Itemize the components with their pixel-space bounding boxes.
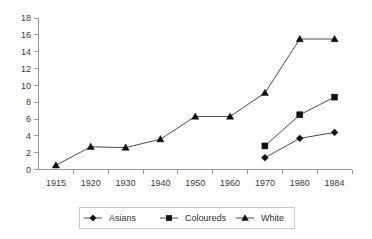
x-tick-label: 1950 <box>185 178 205 188</box>
y-tick-label: 14 <box>21 47 31 57</box>
chart-canvas: 024681012141618 191519201930194019501960… <box>0 0 372 239</box>
y-tick-label: 10 <box>21 81 31 91</box>
y-tick-label: 18 <box>21 13 31 23</box>
x-tick-label: 1920 <box>81 178 101 188</box>
y-tick-label: 2 <box>26 148 31 158</box>
data-point-diamond-marker <box>331 129 338 136</box>
data-point-square-marker <box>332 94 338 100</box>
series-asians <box>262 129 338 161</box>
chart-legend: AsiansColouredsWhite <box>80 208 295 229</box>
data-point-square-marker <box>262 143 268 149</box>
data-point-square-marker <box>166 215 172 221</box>
y-tick-label: 0 <box>26 165 31 175</box>
y-tick-group: 024681012141618 <box>21 13 39 175</box>
data-point-triangle-marker <box>157 136 164 142</box>
legend-label-coloureds: Coloureds <box>185 213 227 223</box>
x-tick-label: 1960 <box>220 178 240 188</box>
legend-label-asians: Asians <box>109 213 137 223</box>
legend-label-white: White <box>261 213 284 223</box>
y-tick-label: 4 <box>26 131 31 141</box>
series-white <box>52 35 338 168</box>
x-tick-label: 1915 <box>46 178 66 188</box>
data-series-group <box>52 35 338 168</box>
y-tick-label: 6 <box>26 114 31 124</box>
x-tick-label: 1984 <box>325 178 345 188</box>
x-tick-group: 191519201930194019501960197019801984 <box>46 170 352 189</box>
line-chart: 024681012141618 191519201930194019501960… <box>0 0 372 239</box>
y-tick-label: 8 <box>26 97 31 107</box>
x-tick-label: 1940 <box>150 178 170 188</box>
x-tick-label: 1970 <box>255 178 275 188</box>
y-tick-label: 12 <box>21 64 31 74</box>
x-tick-label: 1930 <box>116 178 136 188</box>
series-line <box>56 39 335 165</box>
data-point-diamond-marker <box>262 154 269 161</box>
data-point-triangle-marker <box>87 143 94 149</box>
data-point-triangle-marker <box>261 89 268 95</box>
data-point-square-marker <box>297 112 303 118</box>
x-tick-label: 1980 <box>290 178 310 188</box>
data-point-triangle-marker <box>52 162 59 168</box>
y-tick-label: 16 <box>21 30 31 40</box>
data-point-diamond-marker <box>296 135 303 142</box>
